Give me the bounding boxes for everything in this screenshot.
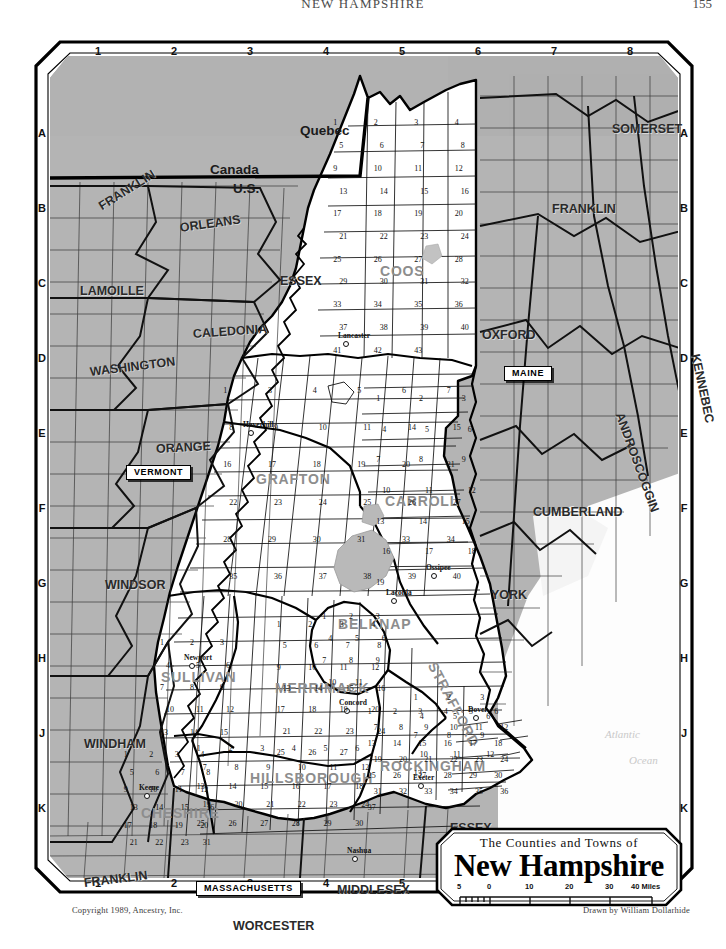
running-head: NEW HAMPSHIRE xyxy=(0,0,726,12)
town-number-hillsborough-9: 9 xyxy=(266,764,270,772)
neatline-index-left-J: J xyxy=(35,728,49,739)
town-number-rockingham-4: 4 xyxy=(444,708,448,716)
town-number-grafton-18: 18 xyxy=(313,461,321,469)
town-number-merrimack-5: 5 xyxy=(283,642,287,650)
town-number-cheshire-17: 17 xyxy=(124,822,132,830)
town-number-merrimack-17: 17 xyxy=(277,706,285,714)
town-number-coos-27: 27 xyxy=(414,256,422,264)
town-number-rockingham-23: 23 xyxy=(475,756,483,764)
town-number-carroll-14: 14 xyxy=(419,518,427,526)
town-number-rockingham-11: 11 xyxy=(475,724,483,732)
scale-tick-40-miles: 40 Miles xyxy=(631,882,660,891)
town-number-grafton-28: 28 xyxy=(223,536,231,544)
town-number-grafton-7: 7 xyxy=(447,387,451,395)
city-marker-newport xyxy=(189,663,195,669)
town-number-cheshire-12: 12 xyxy=(200,786,208,794)
town-number-cheshire-11: 11 xyxy=(175,786,183,794)
ocean-label-atlantic: Atlantic xyxy=(605,729,640,740)
town-number-hillsborough-18: 18 xyxy=(355,783,363,791)
town-number-carroll-3: 3 xyxy=(462,395,466,403)
scale-tick-0: 0 xyxy=(487,882,491,891)
town-number-cheshire-2: 2 xyxy=(149,751,153,759)
town-number-merrimack-13: 13 xyxy=(283,685,291,693)
town-number-cheshire-5: 5 xyxy=(130,769,134,777)
town-number-coos-16: 16 xyxy=(461,188,469,196)
town-number-carroll-8: 8 xyxy=(419,456,423,464)
town-number-grafton-4: 4 xyxy=(313,387,317,395)
town-number-merrimack-27: 27 xyxy=(340,749,348,757)
town-number-hillsborough-5: 5 xyxy=(324,745,328,753)
neatline-index-top-5: 5 xyxy=(394,46,410,57)
state-tag-vermont: VERMONT xyxy=(126,465,191,480)
neatline-index-left-D: D xyxy=(35,353,49,364)
town-number-strafford-5: 5 xyxy=(453,713,457,721)
town-number-hillsborough-26: 26 xyxy=(229,820,237,828)
town-number-rockingham-12: 12 xyxy=(500,724,508,732)
town-number-rockingham-6: 6 xyxy=(494,708,498,716)
county-label-somerset: SOMERSET xyxy=(612,123,682,136)
neatline-index-bottom-2: 2 xyxy=(166,878,182,889)
city-label-laconia: Laconia xyxy=(386,589,412,597)
city-marker-exeter xyxy=(418,783,424,789)
neatline-index-left-F: F xyxy=(35,503,49,514)
town-number-grafton-3: 3 xyxy=(268,387,272,395)
nation-label-u-s-: U.S. xyxy=(233,182,259,196)
town-number-sullivan-6: 6 xyxy=(226,662,230,670)
town-number-hillsborough-11: 11 xyxy=(330,764,338,772)
town-number-rockingham-30: 30 xyxy=(494,772,502,780)
town-number-cheshire-18: 18 xyxy=(149,822,157,830)
town-number-merrimack-24: 24 xyxy=(377,728,385,736)
town-number-carroll-1: 1 xyxy=(376,395,380,403)
city-label-haverhill: Haverhill xyxy=(243,421,273,429)
scale-bar: 5 0 10 20 30 40 Miles xyxy=(456,885,662,905)
town-number-grafton-36: 36 xyxy=(274,573,282,581)
town-number-hillsborough-2: 2 xyxy=(229,745,233,753)
town-number-merrimack-14: 14 xyxy=(314,685,322,693)
town-number-coos-3: 3 xyxy=(414,119,418,127)
town-number-rockingham-1: 1 xyxy=(368,708,372,716)
neatline-index-right-J: J xyxy=(677,728,691,739)
city-marker-laconia xyxy=(391,598,397,604)
town-number-sullivan-11: 11 xyxy=(196,706,204,714)
town-number-cheshire-6: 6 xyxy=(155,769,159,777)
town-number-coos-33: 33 xyxy=(333,301,341,309)
town-number-hillsborough-16: 16 xyxy=(292,783,300,791)
town-number-belknap-11: 11 xyxy=(355,679,363,687)
town-number-strafford-9: 9 xyxy=(480,732,484,740)
town-number-coos-21: 21 xyxy=(339,233,347,241)
neatline-index-top-2: 2 xyxy=(166,46,182,57)
county-label-windsor: WINDSOR xyxy=(105,579,165,592)
town-number-merrimack-26: 26 xyxy=(308,749,316,757)
town-number-merrimack-20: 20 xyxy=(371,706,379,714)
city-marker-lancaster xyxy=(343,341,349,347)
town-number-cheshire-22: 22 xyxy=(155,839,163,847)
town-number-coos-39: 39 xyxy=(420,324,428,332)
town-number-coos-4: 4 xyxy=(455,119,459,127)
town-number-merrimack-2: 2 xyxy=(308,621,312,629)
city-marker-dover xyxy=(473,715,479,721)
copyright-notice: Copyright 1989, Ancestry, Inc. xyxy=(72,905,183,915)
neatline-index-left-K: K xyxy=(35,803,49,814)
town-number-hillsborough-31: 31 xyxy=(203,839,211,847)
town-number-rockingham-33: 33 xyxy=(424,788,432,796)
town-number-coos-1: 1 xyxy=(333,119,337,127)
town-number-merrimack-8: 8 xyxy=(377,642,381,650)
town-number-rockingham-7: 7 xyxy=(374,724,378,732)
town-number-grafton-8: 8 xyxy=(229,424,233,432)
neatline-index-top-1: 1 xyxy=(90,46,106,57)
town-number-cheshire-3: 3 xyxy=(175,751,179,759)
town-number-carroll-7: 7 xyxy=(376,456,380,464)
town-number-belknap-6: 6 xyxy=(382,635,386,643)
town-number-hillsborough-6: 6 xyxy=(355,745,359,753)
town-number-coos-35: 35 xyxy=(414,301,422,309)
town-number-coos-10: 10 xyxy=(374,165,382,173)
town-number-rockingham-17: 17 xyxy=(469,740,477,748)
neatline-index-left-A: A xyxy=(35,128,49,139)
town-number-carroll-4: 4 xyxy=(382,426,386,434)
town-number-carroll-9: 9 xyxy=(462,456,466,464)
town-number-coos-5: 5 xyxy=(339,142,343,150)
town-number-coos-25: 25 xyxy=(333,256,341,264)
town-number-merrimack-7: 7 xyxy=(346,642,350,650)
neatline-index-right-C: C xyxy=(677,278,691,289)
town-number-grafton-19: 19 xyxy=(357,461,365,469)
